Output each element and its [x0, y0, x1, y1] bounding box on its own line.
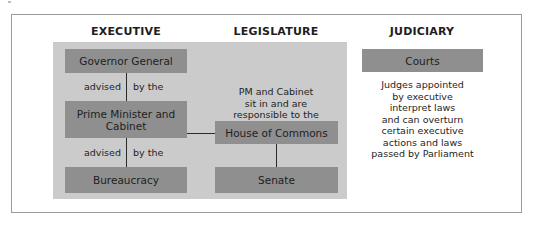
pm-bureaucracy-connector	[126, 138, 127, 167]
governor-general-label: Governor General	[79, 55, 172, 67]
pm-commons-connector	[187, 133, 215, 134]
commons-senate-connector	[276, 144, 277, 167]
courts-label: Courts	[405, 55, 439, 67]
note-line: passed by Parliament	[352, 148, 493, 160]
house-of-commons-box: House of Commons	[215, 121, 338, 144]
gg-pm-connector	[126, 73, 127, 101]
senate-box: Senate	[215, 167, 338, 193]
by-the-label-1: by the	[133, 81, 163, 92]
legislature-heading: LEGISLATURE	[206, 25, 346, 38]
note-line: actions and laws	[352, 137, 493, 149]
corner-mark	[8, 1, 11, 3]
note-line: and can overturn	[352, 114, 493, 126]
by-the-label-2: by the	[133, 147, 163, 158]
note-line: interpret laws	[352, 102, 493, 114]
pm-responsibility-note: PM and Cabinet sit in and are responsibl…	[210, 86, 342, 121]
note-line: certain executive	[352, 125, 493, 137]
pm-cabinet-box: Prime Minister and Cabinet	[65, 101, 187, 138]
note-line: responsible to the	[210, 109, 342, 121]
advised-label-2: advised	[84, 147, 121, 158]
courts-box: Courts	[362, 49, 483, 72]
house-of-commons-label: House of Commons	[225, 127, 327, 139]
senate-label: Senate	[258, 174, 295, 186]
note-line: sit in and are	[210, 98, 342, 110]
pm-cabinet-label-line2: Cabinet	[106, 120, 147, 132]
note-line: by executive	[352, 91, 493, 103]
pm-cabinet-label-line1: Prime Minister and	[77, 108, 175, 120]
judiciary-note: Judges appointed by executive interpret …	[352, 79, 493, 160]
judiciary-heading: JUDICIARY	[352, 25, 492, 38]
note-line: PM and Cabinet	[210, 86, 342, 98]
note-line: Judges appointed	[352, 79, 493, 91]
bureaucracy-label: Bureaucracy	[93, 174, 159, 186]
governor-general-box: Governor General	[65, 49, 187, 73]
bureaucracy-box: Bureaucracy	[65, 167, 187, 193]
advised-label-1: advised	[84, 81, 121, 92]
executive-heading: EXECUTIVE	[56, 25, 196, 38]
